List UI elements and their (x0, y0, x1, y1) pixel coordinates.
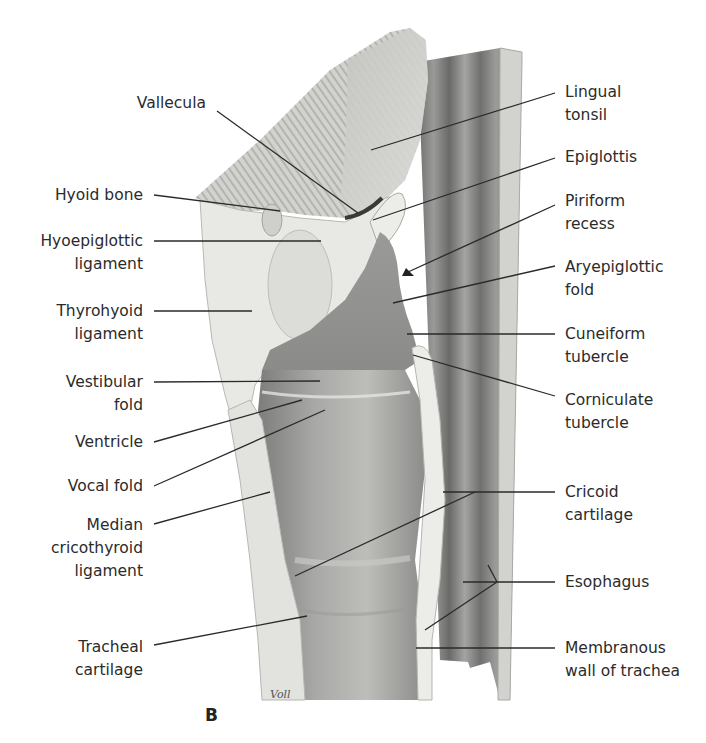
label-line: Thyrohyoid (56, 300, 143, 323)
label-line: ligament (56, 323, 143, 346)
tongue-base-shape (195, 28, 428, 218)
label-line: Cuneiform (565, 323, 645, 346)
label-line: Cricoid (565, 481, 633, 504)
artist-signature: Voll (270, 688, 291, 701)
label-thyrohyoid-ligament: Thyrohyoid ligament (56, 300, 143, 346)
label-lingual-tonsil: Lingual tonsil (565, 81, 621, 127)
label-line: Median (51, 514, 143, 537)
label-epiglottis: Epiglottis (565, 146, 637, 169)
label-line: ligament (51, 560, 143, 583)
label-line: cartilage (565, 504, 633, 527)
label-line: Aryepiglottic (565, 256, 663, 279)
larynx-sagittal-section-figure: Vallecula Hyoid bone Hyoepiglottic ligam… (0, 0, 706, 743)
label-line: Membranous (565, 637, 680, 660)
label-line: Vallecula (137, 92, 206, 115)
label-cricoid-cartilage: Cricoid cartilage (565, 481, 633, 527)
panel-letter: B (205, 705, 218, 725)
label-line: Piriform (565, 190, 625, 213)
label-line: Vocal fold (68, 475, 143, 498)
label-line: Hyoepiglottic (40, 230, 143, 253)
label-tracheal-cartilage: Tracheal cartilage (75, 636, 143, 682)
label-line: Corniculate (565, 389, 653, 412)
label-esophagus: Esophagus (565, 571, 649, 594)
label-corniculate-tubercle: Corniculate tubercle (565, 389, 653, 435)
label-line: cartilage (75, 659, 143, 682)
label-line: fold (565, 279, 663, 302)
label-membranous-wall-of-trachea: Membranous wall of trachea (565, 637, 680, 683)
label-line: tonsil (565, 104, 621, 127)
label-line: Ventricle (75, 431, 143, 454)
label-line: tubercle (565, 346, 645, 369)
label-hyoid-bone: Hyoid bone (55, 184, 143, 207)
label-line: tubercle (565, 412, 653, 435)
label-line: Esophagus (565, 571, 649, 594)
label-line: Vestibular (66, 371, 143, 394)
label-ventricle: Ventricle (75, 431, 143, 454)
label-hyoepiglottic-ligament: Hyoepiglottic ligament (40, 230, 143, 276)
label-line: Hyoid bone (55, 184, 143, 207)
label-cuneiform-tubercle: Cuneiform tubercle (565, 323, 645, 369)
label-line: Lingual (565, 81, 621, 104)
label-line: cricothyroid (51, 537, 143, 560)
label-line: Epiglottis (565, 146, 637, 169)
label-piriform-recess: Piriform recess (565, 190, 625, 236)
label-aryepiglottic-fold: Aryepiglottic fold (565, 256, 663, 302)
label-vocal-fold: Vocal fold (68, 475, 143, 498)
piriform-arrowhead (402, 268, 414, 276)
label-line: Tracheal (75, 636, 143, 659)
label-line: wall of trachea (565, 660, 680, 683)
label-median-cricothyroid-ligament: Median cricothyroid ligament (51, 514, 143, 583)
label-line: recess (565, 213, 625, 236)
label-line: fold (66, 394, 143, 417)
label-vestibular-fold: Vestibular fold (66, 371, 143, 417)
label-line: ligament (40, 253, 143, 276)
label-vallecula: Vallecula (137, 92, 206, 115)
